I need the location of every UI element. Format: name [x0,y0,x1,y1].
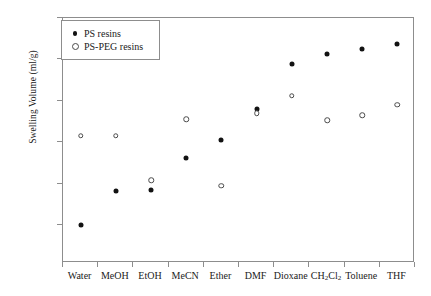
data-point [149,187,154,192]
data-point [324,118,330,124]
data-point [219,138,224,143]
data-point [325,52,330,57]
x-tick-label: Dioxane [274,270,308,281]
x-tick-mark [203,262,204,267]
x-tick-label: Water [68,270,92,281]
x-tick-label: MeCN [172,270,199,281]
x-tick-label: EtOH [138,270,161,281]
x-tick-mark [132,262,133,267]
x-tick-mark [168,262,169,267]
open-circle-icon [70,43,80,50]
x-tick-label: Ether [210,270,232,281]
x-tick-mark [379,262,380,267]
data-point [78,223,83,228]
x-tick-label: DMF [245,270,267,281]
data-point [113,188,118,193]
x-tick-mark [62,262,63,267]
x-tick-label: THF [387,270,406,281]
data-point [219,183,225,189]
data-point [360,47,365,52]
data-point [395,102,401,108]
legend-item-ps-peg-resins: PS-PEG resins [70,40,151,53]
x-tick-mark [238,262,239,267]
x-tick-label: MeOH [101,270,129,281]
chart-figure: Swelling Volume (ml/g) 0246810 WaterMeOH… [0,0,431,296]
legend-label: PS-PEG resins [84,41,143,52]
x-tick-mark [308,262,309,267]
data-point [183,117,189,123]
data-point [113,133,119,139]
filled-circle-icon [70,31,80,36]
data-point [289,93,295,99]
y-axis-title: Swelling Volume (ml/g) [28,12,38,182]
x-tick-mark [97,262,98,267]
data-point [359,113,365,119]
data-point [184,155,189,160]
data-point [78,133,84,139]
legend-label: PS resins [84,28,121,39]
x-tick-mark [414,262,415,267]
chart-legend: PS resins PS-PEG resins [61,20,160,60]
data-point [148,178,154,184]
data-point [289,61,294,66]
legend-item-ps-resins: PS resins [70,27,151,40]
data-point [395,41,400,46]
x-tick-label: CH2Cl2 [311,270,341,284]
data-point [254,110,260,116]
x-tick-mark [273,262,274,267]
x-tick-label: Toluene [345,270,377,281]
x-tick-mark [344,262,345,267]
